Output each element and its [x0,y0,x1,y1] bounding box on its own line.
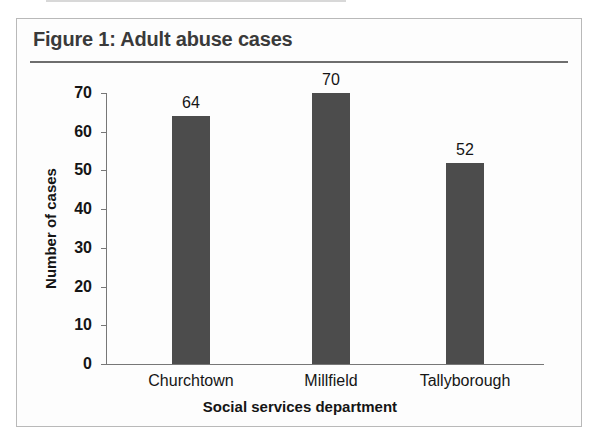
bar-churchtown: 64 [172,116,210,364]
plot-area: 0 10 20 30 40 50 60 70 [106,93,544,364]
y-tick-40: 40 [101,209,106,210]
y-tick-label-10: 10 [74,317,92,333]
y-axis-title: Number of cases [39,93,61,364]
y-tick-70: 70 [101,93,106,94]
x-tick-label-tallyborough: Tallyborough [420,372,511,390]
bar-value-churchtown: 64 [182,95,200,111]
x-axis-line [106,364,544,365]
y-tick-30: 30 [101,248,106,249]
y-tick-label-0: 0 [83,356,92,372]
y-tick-20: 20 [101,287,106,288]
bar-millfield: 70 [312,93,350,364]
y-tick-label-40: 40 [74,201,92,217]
y-tick-10: 10 [101,325,106,326]
bar-tallyborough: 52 [446,163,484,364]
x-axis-title: Social services department [17,398,583,415]
y-tick-label-30: 30 [74,240,92,256]
y-tick-label-60: 60 [74,124,92,140]
y-tick-label-20: 20 [74,279,92,295]
figure-frame: Figure 1: Adult abuse cases Number of ca… [16,18,582,427]
x-tick-label-millfield: Millfield [304,372,357,390]
y-tick-label-50: 50 [74,162,92,178]
y-tick-60: 60 [101,132,106,133]
y-tick-0: 0 [101,364,106,365]
y-tick-label-70: 70 [74,85,92,101]
bar-chart: Number of cases 0 10 20 30 40 50 [17,19,583,428]
x-tick-label-churchtown: Churchtown [148,372,233,390]
y-axis-title-text: Number of cases [42,168,59,289]
bar-value-tallyborough: 52 [456,142,474,158]
y-axis-line [106,93,107,365]
bar-value-millfield: 70 [322,72,340,88]
y-tick-50: 50 [101,170,106,171]
scan-artifact-line [46,0,346,2]
